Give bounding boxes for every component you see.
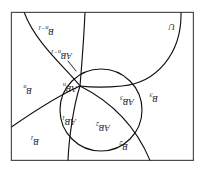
label-b2: B2: [119, 140, 128, 151]
label-b3: B3: [149, 92, 158, 103]
label-abn-minus-1: ABn−1: [51, 49, 72, 60]
label-ab2: AB2: [96, 121, 110, 132]
label-bn: Bn: [23, 84, 32, 95]
label-ab3: AB3: [120, 95, 134, 106]
label-bn-minus-1: Bn−1: [38, 25, 54, 36]
label-universe: U: [169, 22, 176, 31]
label-abn: ABn: [63, 82, 77, 93]
figure-root: B1 B2 B3 Bn Bn−1 AB1 AB2 AB3 ABn ABn−1 U: [0, 0, 202, 172]
rotated-diagram-stage: B1 B2 B3 Bn Bn−1 AB1 AB2 AB3 ABn ABn−1 U: [0, 0, 202, 172]
label-ab1: AB1: [62, 115, 76, 126]
label-b1: B1: [30, 135, 39, 146]
